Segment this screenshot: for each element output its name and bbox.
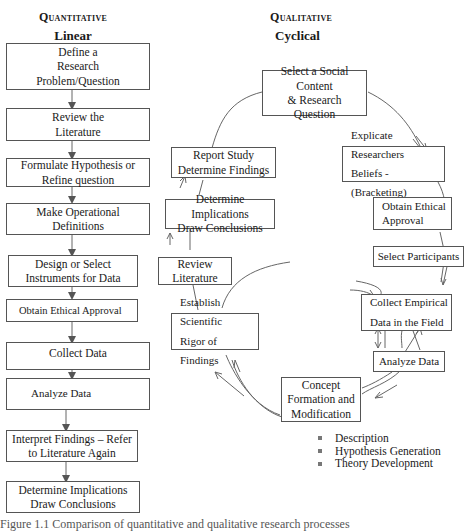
cycle-step-concept-formation: Concept Formation and Modification [281,377,361,422]
outcomes-list: Description Hypothesis Generation Theory… [318,432,441,470]
cycle-step-analyze-data: Analyze Data [373,351,445,372]
linear-step-review-literature: Review the Literature [6,108,150,141]
quantitative-heading: Quantitative [18,10,128,25]
bullet-icon [318,436,322,440]
outcome-item: Theory Development [318,457,441,470]
bullet-icon [318,449,322,453]
cycle-arrow [375,385,397,398]
outcome-item: Hypothesis Generation [318,445,441,458]
figure-caption: Figure 1.1 Comparison of quantitative an… [0,517,350,532]
qualitative-subheading: Cyclical [270,28,325,44]
qualitative-heading: Qualitative [270,10,380,25]
quantitative-subheading: Linear [18,28,128,44]
cycle-arc [212,92,262,148]
cycle-step-collect-empirical-data: Collect Empirical Data in the Field [361,294,452,331]
cycle-step-determine-implications: Determine Implications Draw Conclusions [165,199,275,229]
outcome-item: Description [318,432,441,445]
cycle-step-obtain-ethical-approval: Obtain Ethical Approval [373,197,452,230]
linear-step-operational-definitions: Make Operational Definitions [6,203,150,235]
cycle-step-select-social-content: Select a Social Content & Research Quest… [262,70,367,116]
cycle-arc [362,371,400,394]
cycle-arrow [215,372,244,396]
cycle-step-explicate-beliefs: Explicate Researchers Beliefs - (Bracket… [342,146,445,182]
linear-step-ethical-approval: Obtain Ethical Approval [6,299,138,322]
linear-step-analyze-data: Analyze Data [6,378,150,410]
cycle-step-select-participants: Select Participants [373,246,464,267]
cycle-step-establish-rigor: Establish Scientific Rigor of Findings [171,313,259,350]
linear-step-formulate-hypothesis: Formulate Hypothesis or Refine question [6,158,150,187]
linear-step-define-problem: Define a Research Problem/Question [6,43,150,90]
linear-step-interpret-findings: Interpret Findings – Refer to Literature… [6,430,138,462]
linear-step-design-instruments: Design or Select Instruments for Data [8,255,138,287]
cycle-arc [362,372,392,388]
cycle-step-review-literature: Review Literature [158,257,232,285]
linear-step-collect-data: Collect Data [6,342,150,370]
bullet-icon [318,462,322,466]
linear-step-determine-implications: Determine Implications Draw Conclusions [6,481,140,513]
cycle-step-report-study: Report Study Determine Findings [171,147,276,178]
